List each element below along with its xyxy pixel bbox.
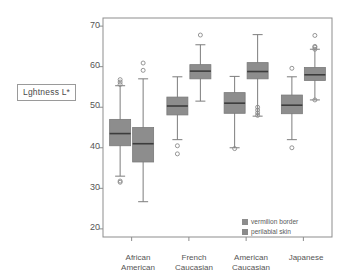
box-iqr — [281, 95, 302, 114]
legend-item-perilabial-skin: perilabial skin — [242, 229, 298, 236]
y-tick-20: 20 — [78, 223, 100, 232]
box-iqr — [304, 67, 325, 80]
box-perilabial-skin-0 — [133, 61, 154, 202]
x-tick-japanese: Japanese — [280, 253, 332, 263]
chart-legend: vermilion border perilabial skin — [242, 219, 298, 238]
legend-item-vermilion-border: vermilion border — [242, 219, 298, 226]
outlier-marker — [313, 33, 317, 37]
outlier-marker — [290, 146, 294, 150]
x-tick-french-caucasian: French Caucasian — [166, 253, 222, 273]
box-perilabial-skin-3 — [304, 33, 325, 101]
y-tick-30: 30 — [78, 183, 100, 192]
outlier-marker — [198, 33, 202, 37]
box-iqr — [247, 63, 268, 79]
box-vermilion-border-0 — [110, 78, 131, 185]
x-tick-american-caucasian: American Caucasian — [222, 253, 280, 273]
legend-label-perilabial-skin: perilabial skin — [251, 229, 291, 236]
box-vermilion-border-3 — [281, 66, 302, 149]
y-tick-70: 70 — [78, 21, 100, 30]
x-tick-african-american: African American — [110, 253, 166, 273]
legend-swatch-vermilion-border — [242, 219, 248, 225]
boxplot-figure: Lghtness L* 70 60 50 40 30 20 African Am… — [0, 0, 345, 280]
outlier-marker — [141, 61, 145, 65]
y-tick-60: 60 — [78, 61, 100, 70]
legend-swatch-perilabial-skin — [242, 229, 248, 235]
box-iqr — [110, 119, 131, 145]
y-tick-50: 50 — [78, 101, 100, 110]
y-tick-40: 40 — [78, 142, 100, 151]
outlier-marker — [175, 152, 179, 156]
box-iqr — [133, 128, 154, 162]
box-vermilion-border-1 — [167, 77, 188, 156]
outlier-marker — [175, 144, 179, 148]
box-perilabial-skin-2 — [247, 35, 268, 118]
outlier-marker — [290, 66, 294, 70]
outlier-marker — [141, 68, 145, 72]
y-axis-label: Lghtness L* — [17, 84, 76, 101]
legend-label-vermilion-border: vermilion border — [251, 219, 298, 226]
box-perilabial-skin-1 — [190, 33, 211, 101]
box-vermilion-border-2 — [224, 76, 245, 150]
